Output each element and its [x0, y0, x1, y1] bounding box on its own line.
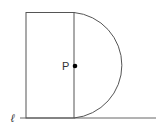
point-label: P — [62, 60, 69, 72]
point-p — [73, 64, 78, 69]
geometry-diagram: P ℓ — [0, 0, 159, 134]
line-label: ℓ — [10, 112, 15, 124]
semicircle-arc — [74, 13, 122, 119]
